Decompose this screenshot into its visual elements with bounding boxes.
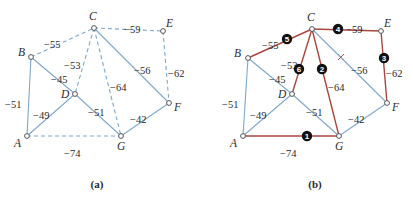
edge-b-a — [243, 58, 248, 136]
edge-e-f — [163, 31, 169, 103]
node-label-b: B — [234, 47, 241, 59]
edge-weight-label: −51 — [306, 107, 322, 118]
panel-caption: (b) — [308, 178, 322, 191]
edge-weight-label: −62 — [168, 68, 184, 79]
node-d-icon — [73, 92, 78, 97]
node-label-c: C — [307, 11, 315, 23]
figure-canvas: −55−59−53−64−56−62−45−51−49−51−42−74ABCD… — [0, 0, 413, 198]
node-g-icon — [119, 134, 124, 139]
node-label-c: C — [89, 10, 97, 22]
edge-weight-label: −51 — [88, 107, 104, 118]
edge-weight-label: −55 — [262, 40, 278, 51]
edge-weight-label: −74 — [64, 148, 81, 159]
node-label-d: D — [60, 88, 70, 100]
node-label-a: A — [229, 137, 238, 149]
panel-caption: (a) — [91, 178, 104, 191]
edge-weight-label: −74 — [280, 148, 297, 159]
node-e-icon — [161, 29, 166, 34]
graph-figure: −55−59−53−64−56−62−45−51−49−51−42−74ABCD… — [0, 0, 413, 198]
node-d-icon — [290, 92, 295, 97]
node-f-icon — [385, 101, 390, 106]
order-badge-number: 3 — [382, 54, 387, 63]
node-b-icon — [29, 55, 34, 60]
order-badge-number: 1 — [305, 132, 310, 141]
node-label-b: B — [18, 46, 25, 58]
node-label-e: E — [165, 17, 173, 29]
node-a-icon — [25, 134, 30, 139]
node-f-icon — [167, 101, 172, 106]
node-c-icon — [92, 26, 97, 31]
edge-c-f — [94, 28, 169, 103]
edge-weight-label: −56 — [134, 65, 150, 76]
edge-e-f — [381, 31, 387, 103]
order-badge-number: 2 — [320, 65, 325, 74]
edge-weight-label: −55 — [44, 39, 60, 50]
node-label-a: A — [13, 137, 22, 149]
node-label-f: F — [173, 101, 182, 113]
node-g-icon — [337, 134, 342, 139]
edge-b-a — [27, 57, 31, 136]
node-label-d: D — [277, 88, 287, 100]
node-label-g: G — [335, 140, 344, 152]
edge-weight-label: −59 — [346, 24, 362, 35]
edge-weight-label: −45 — [269, 74, 285, 85]
edge-weight-label: −64 — [110, 82, 127, 93]
edge-weight-label: −59 — [124, 24, 140, 35]
edge-b-c — [31, 28, 94, 57]
node-label-e: E — [383, 17, 391, 29]
edge-weight-label: −42 — [130, 114, 146, 125]
edge-weight-label: −49 — [33, 110, 49, 121]
node-e-icon — [379, 29, 384, 34]
edge-weight-label: −56 — [351, 65, 367, 76]
panel-b-spanning-tree: −55−59−53−64−56−62−45−51−49−51−42−745462… — [222, 11, 402, 191]
panel-a-original-graph: −55−59−53−64−56−62−45−51−49−51−42−74ABCD… — [5, 10, 184, 191]
node-label-f: F — [391, 101, 400, 113]
order-badge-number: 6 — [297, 65, 302, 74]
edge-weight-label: −42 — [348, 114, 364, 125]
edge-b-c — [248, 29, 312, 58]
node-c-icon — [310, 27, 315, 32]
node-label-g: G — [117, 140, 126, 152]
edge-weight-label: −49 — [250, 110, 266, 121]
edge-weight-label: −64 — [328, 82, 345, 93]
edge-weight-label: −53 — [64, 60, 80, 71]
edge-weight-label: −51 — [5, 99, 21, 110]
edge-weight-label: −62 — [386, 68, 402, 79]
node-b-icon — [246, 56, 251, 61]
edge-weight-label: −51 — [222, 99, 238, 110]
edge-weight-label: −45 — [51, 74, 67, 85]
order-badge-number: 4 — [336, 25, 341, 34]
node-a-icon — [241, 134, 246, 139]
order-badge-number: 5 — [285, 35, 290, 44]
